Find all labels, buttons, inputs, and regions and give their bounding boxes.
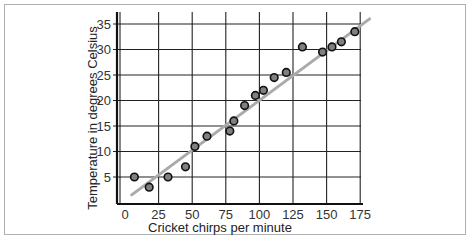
y-axis-label: Temperature in degrees Celsius bbox=[85, 26, 100, 210]
x-tick-label: 150 bbox=[316, 207, 338, 222]
data-point bbox=[282, 69, 290, 77]
data-point bbox=[319, 48, 327, 56]
data-point bbox=[252, 92, 260, 100]
data-point bbox=[145, 183, 153, 191]
data-point bbox=[164, 173, 172, 181]
data-points bbox=[131, 28, 359, 191]
data-point bbox=[270, 74, 278, 82]
x-axis-label: Cricket chirps per minute bbox=[148, 220, 292, 235]
data-point bbox=[338, 38, 346, 46]
data-point bbox=[182, 163, 190, 171]
x-tick-label: 0 bbox=[121, 207, 128, 222]
x-tick-label: 175 bbox=[349, 207, 371, 222]
data-point bbox=[260, 87, 268, 95]
data-point bbox=[328, 43, 336, 51]
y-tick-label: 5 bbox=[104, 170, 111, 185]
data-point bbox=[226, 127, 234, 135]
data-point bbox=[351, 28, 359, 36]
data-point bbox=[230, 117, 238, 125]
data-point bbox=[191, 143, 199, 151]
scatter-chart: 0255075100125150175 5101520253035 Cricke… bbox=[0, 0, 474, 248]
grid-lines bbox=[113, 12, 361, 204]
data-point bbox=[241, 102, 249, 110]
data-point bbox=[131, 173, 139, 181]
data-point bbox=[299, 43, 307, 51]
data-point bbox=[203, 132, 211, 140]
